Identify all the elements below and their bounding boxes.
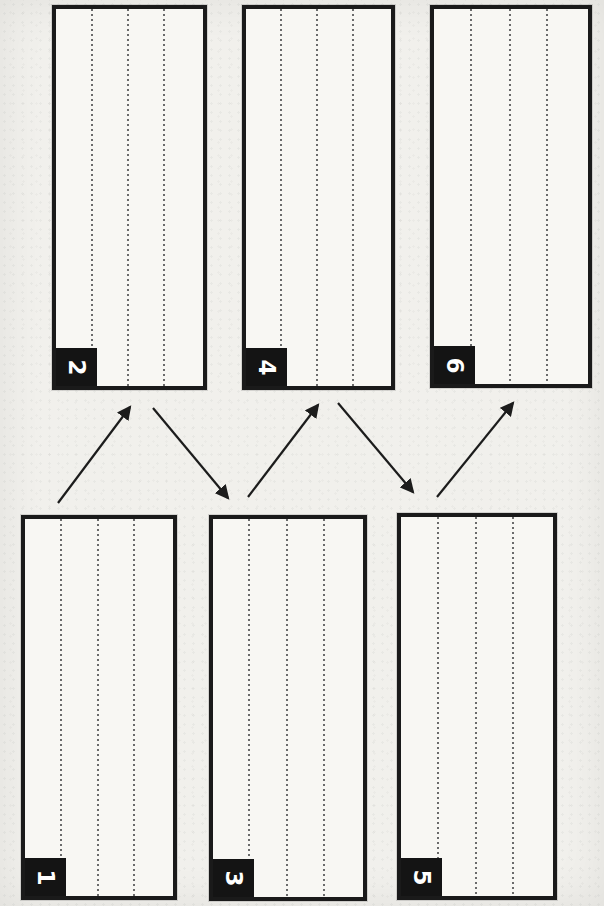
ruled-line [470,9,472,384]
worksheet-page: 123456 [0,0,604,906]
panel-number: 1 [34,869,57,885]
ruled-line [509,9,511,384]
ruled-line [512,517,514,896]
ruled-line [91,9,93,386]
ruled-line [475,517,477,896]
panel-number-badge-6: 6 [434,346,475,384]
arrow-3-to-4 [248,405,318,497]
ruled-line [352,9,354,386]
panel-number: 4 [255,359,278,375]
panel-number: 5 [410,869,433,885]
ruled-line [127,9,129,386]
arrow-1-to-2 [58,407,130,503]
panel-2: 2 [52,5,207,390]
panel-number-badge-2: 2 [56,348,97,386]
panel-number-badge-1: 1 [25,858,66,896]
panel-5: 5 [397,513,557,900]
ruled-line [437,517,439,896]
panel-number-badge-5: 5 [401,858,442,896]
ruled-line [248,519,250,897]
ruled-line [60,519,62,896]
ruled-line [97,519,99,896]
ruled-line [163,9,165,386]
ruled-line [133,519,135,896]
ruled-line [280,9,282,386]
worksheet-scan: { "page": { "width": 604, "height": 906,… [0,0,604,906]
panel-4: 4 [242,5,395,390]
panel-number: 3 [222,870,245,886]
panel-1: 1 [21,515,177,900]
panel-number-badge-3: 3 [213,859,254,897]
panel-6: 6 [430,5,592,388]
ruled-line [316,9,318,386]
panel-3: 3 [209,515,367,901]
ruled-line [286,519,288,897]
ruled-line [546,9,548,384]
panel-number-badge-4: 4 [246,348,287,386]
arrow-2-to-3 [153,408,228,498]
ruled-line [323,519,325,897]
arrow-4-to-5 [338,403,413,492]
panel-number: 6 [443,357,466,373]
panel-number: 2 [65,359,88,375]
arrow-5-to-6 [437,403,513,497]
